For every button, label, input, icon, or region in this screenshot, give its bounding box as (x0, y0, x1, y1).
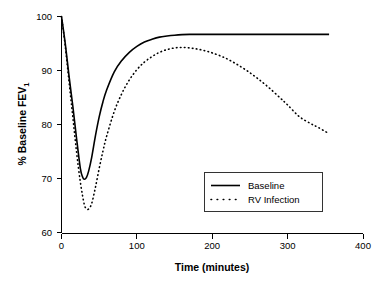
chart-legend: Baseline RV Infection (205, 173, 323, 212)
y-tick-label: 60 (41, 227, 52, 238)
y-axis-title: % Baseline FEV1 (16, 83, 31, 166)
y-tick-label: 80 (41, 119, 52, 130)
legend-box (205, 173, 323, 212)
chart-svg: 100 90 80 70 60 0 100 200 300 400 Time (… (0, 0, 391, 283)
x-tick-label: 100 (129, 240, 145, 251)
x-tick-label: 300 (280, 240, 296, 251)
legend-label-baseline: Baseline (248, 180, 284, 191)
y-tick-label: 90 (41, 65, 52, 76)
legend-label-rv-infection: RV Infection (248, 194, 300, 205)
x-tick-label: 200 (204, 240, 220, 251)
x-tick-label: 0 (59, 240, 64, 251)
y-tick-marks (57, 17, 62, 233)
y-axis-title-group: % Baseline FEV1 (16, 83, 31, 166)
x-axis-title: Time (minutes) (175, 261, 249, 273)
y-axis-title-subscript: 1 (22, 83, 31, 87)
y-tick-labels: 100 90 80 70 60 (36, 11, 52, 238)
y-tick-label: 100 (36, 11, 52, 22)
y-axis-title-main: % Baseline FEV (16, 87, 28, 166)
y-tick-label: 70 (41, 173, 52, 184)
x-tick-labels: 0 100 200 300 400 (59, 240, 371, 251)
x-tick-label: 400 (355, 240, 371, 251)
chart-figure: 100 90 80 70 60 0 100 200 300 400 Time (… (0, 0, 391, 283)
x-tick-marks (62, 234, 364, 239)
